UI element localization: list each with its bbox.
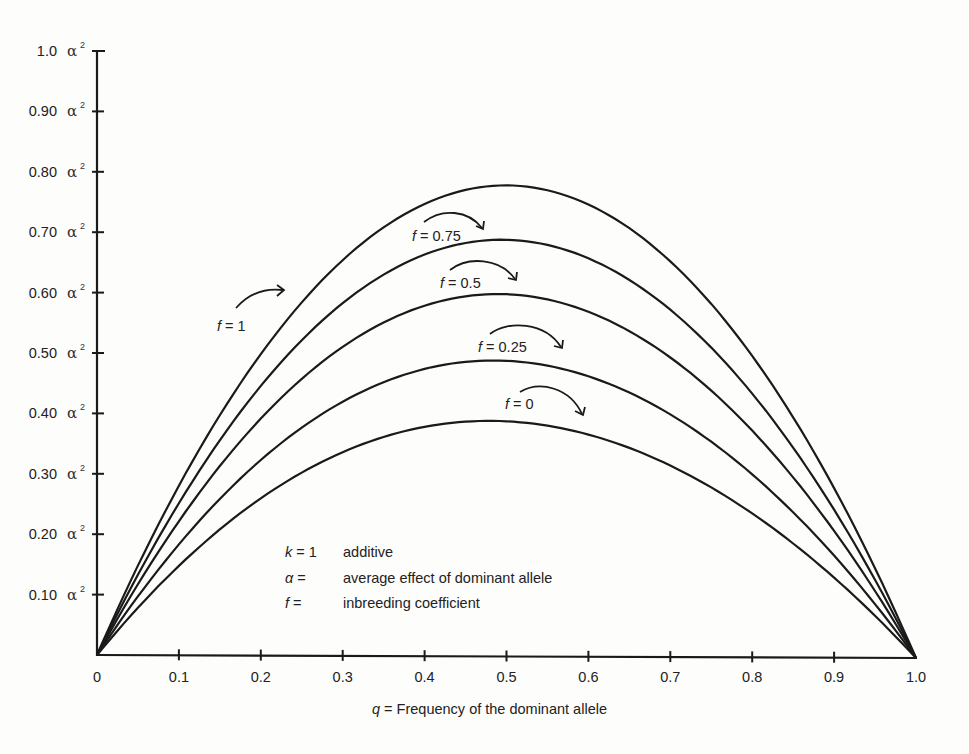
label-f-1: f = 1 [217,285,284,334]
x-tick-label: 0.1 [169,669,189,685]
x-tick-label: 0.9 [824,669,844,685]
x-axis-label: q = Frequency of the dominant allele [372,701,607,717]
chart: 0.10α20.20α20.30α20.40α20.50α20.60α20.70… [0,0,969,754]
y-tick-label: 0.30 [29,466,57,482]
y-tick-label: 0.40 [29,405,57,421]
label-f-0.25: f = 0.25 [478,325,563,355]
y-tick-unit-power: 2 [80,402,85,412]
y-tick-label: 0.70 [29,224,57,240]
y-tick-unit: α [67,284,77,302]
y-tick-unit-power: 2 [80,161,85,171]
y-tick-label: 0.20 [29,526,57,542]
y-tick-unit-power: 2 [80,282,85,292]
arrow-icon [424,213,482,228]
y-tick-label: 0.10 [29,587,57,603]
y-tick-unit-power: 2 [80,523,85,533]
y-tick-unit-power: 2 [80,584,85,594]
x-tick-label: 0.7 [660,669,680,685]
annotation-block: k = 1 additive α = average effect of dom… [285,544,552,611]
svg-text:f = 0.5: f = 0.5 [440,275,481,291]
x-tick-label: 0.3 [333,669,353,685]
svg-text:f = 0.75: f = 0.75 [412,228,461,244]
svg-text:f = 0.25: f = 0.25 [478,339,527,355]
y-tick-unit-power: 2 [80,342,85,352]
y-tick-unit-power: 2 [80,100,85,110]
y-tick-label: 0.60 [29,285,57,301]
x-tick-label: 1.0 [906,669,926,685]
arrow-icon [236,290,283,308]
svg-text:f = 0: f = 0 [505,396,534,412]
y-tick-label: 1.0 [37,43,57,59]
y-tick-unit: α [67,404,77,422]
y-tick-unit: α [67,344,77,362]
y-tick-label: 0.50 [29,345,57,361]
annotation-alpha: α = [285,570,306,586]
label-f-0: f = 0 [505,387,585,415]
x-tick-label: 0 [93,669,101,685]
annotation-alpha-desc: average effect of dominant allele [343,570,552,586]
annotation-f: f = [285,595,302,611]
y-tick-label: 0.90 [29,103,57,119]
y-tick-unit-power: 2 [80,40,85,50]
y-tick-unit-power: 2 [80,221,85,231]
y-tick-unit: α [67,586,77,604]
annotation-k: k = 1 [285,544,317,560]
x-tick-label: 0.4 [415,669,435,685]
y-tick-label: 0.80 [29,164,57,180]
y-tick-unit: α [67,465,77,483]
annotation-f-desc: inbreeding coefficient [343,595,480,611]
y-ticks: 0.10α20.20α20.30α20.40α20.50α20.60α20.70… [29,40,104,604]
x-tick-label: 0.5 [496,669,516,685]
svg-text:f = 1: f = 1 [217,318,246,334]
y-tick-unit: α [67,42,77,60]
curves [97,185,916,658]
label-f-0.75: f = 0.75 [412,213,484,244]
y-tick-unit: α [67,525,77,543]
x-tick-label: 0.8 [742,669,762,685]
curve-f0.75 [97,240,916,658]
y-tick-unit: α [67,223,77,241]
x-tick-label: 0.2 [251,669,271,685]
y-tick-unit-power: 2 [80,463,85,473]
label-f-0.5: f = 0.5 [440,261,517,291]
curve-f0 [97,421,916,658]
y-tick-unit: α [67,102,77,120]
label-f-1-val: = 1 [221,318,246,334]
y-tick-unit: α [67,163,77,181]
x-tick-label: 0.6 [578,669,598,685]
annotation-k-desc: additive [343,544,393,560]
